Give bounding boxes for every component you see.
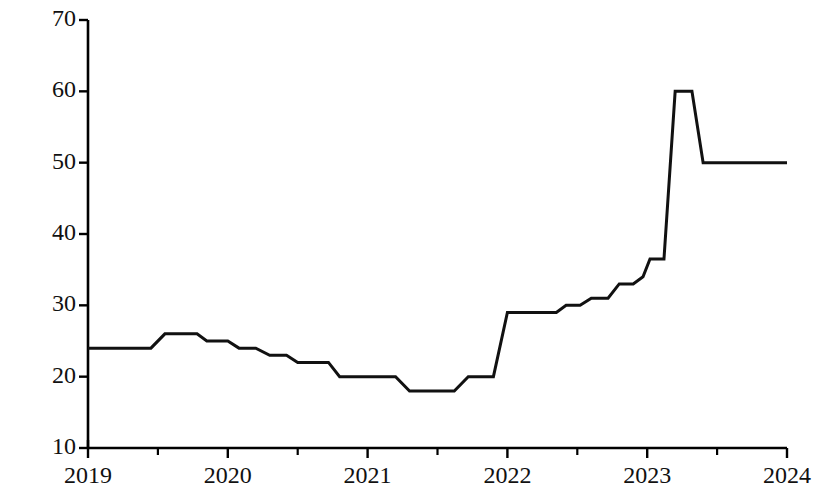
price-series-line (88, 91, 787, 391)
x-tick-label: 2021 (323, 462, 413, 486)
y-tick-label: 40 (30, 219, 76, 246)
y-tick-label: 10 (30, 433, 76, 460)
chart-canvas (0, 0, 819, 486)
x-tick-label: 2020 (183, 462, 273, 486)
y-tick-label: 50 (30, 148, 76, 175)
x-tick-label: 2019 (43, 462, 133, 486)
axes (88, 20, 787, 448)
y-tick-label: 60 (30, 76, 76, 103)
x-tick-label: 2024 (742, 462, 819, 486)
y-tick-label: 70 (30, 5, 76, 32)
line-chart: 价格（元/千克） 70605040302010 2019202020212022… (0, 0, 819, 486)
x-tick-label: 2022 (462, 462, 552, 486)
x-tick-label: 2023 (602, 462, 692, 486)
y-tick-label: 30 (30, 290, 76, 317)
y-tick-label: 20 (30, 362, 76, 389)
